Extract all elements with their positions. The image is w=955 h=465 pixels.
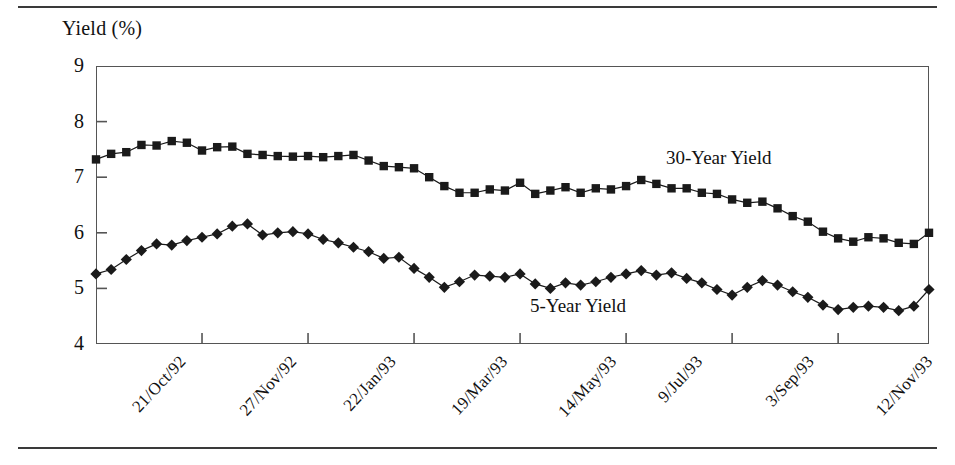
data-point	[183, 139, 191, 147]
series-line-30-year	[96, 141, 929, 244]
data-point	[469, 269, 480, 280]
data-point	[864, 233, 872, 241]
data-point	[122, 148, 130, 156]
plot-canvas	[96, 66, 929, 344]
data-point	[727, 289, 738, 300]
x-tick-label-7: 12/Nov/93	[872, 352, 937, 420]
data-point	[257, 229, 268, 240]
data-point	[486, 185, 494, 193]
x-tick-label-0: 21/Oct/92	[128, 352, 190, 417]
data-point	[302, 228, 313, 239]
data-point	[395, 163, 403, 171]
data-point	[499, 272, 510, 283]
data-point	[470, 189, 478, 197]
y-tick-label-7: 7	[44, 166, 84, 186]
data-point	[334, 152, 342, 160]
data-point	[348, 242, 359, 253]
data-point	[711, 284, 722, 295]
data-point	[121, 254, 132, 265]
data-point	[802, 292, 813, 303]
data-point	[682, 184, 690, 192]
data-point	[833, 304, 844, 315]
data-point	[590, 276, 601, 287]
data-point	[90, 268, 101, 279]
data-point	[743, 199, 751, 207]
data-point	[151, 238, 162, 249]
data-point	[895, 239, 903, 247]
data-point	[863, 301, 874, 312]
y-tick-label-9: 9	[44, 55, 84, 75]
data-point	[181, 235, 192, 246]
data-point	[546, 186, 554, 194]
data-point	[560, 277, 571, 288]
y-tick-marks	[96, 122, 107, 289]
data-point	[561, 183, 569, 191]
data-point	[879, 234, 887, 242]
data-point	[213, 143, 221, 151]
data-point	[713, 190, 721, 198]
y-axis-title: Yield (%)	[62, 17, 142, 40]
data-point	[696, 277, 707, 288]
data-point	[318, 234, 329, 245]
x-tick-label-5: 9/Jul/93	[654, 352, 707, 407]
x-tick-marks	[202, 333, 838, 344]
data-point	[227, 221, 238, 232]
data-point	[198, 146, 206, 154]
data-point	[378, 253, 389, 264]
data-point	[530, 278, 541, 289]
data-point	[848, 302, 859, 313]
data-point	[681, 273, 692, 284]
data-point	[166, 239, 177, 250]
data-point	[728, 195, 736, 203]
data-point	[893, 305, 904, 316]
x-tick-label-2: 22/Jan/93	[340, 352, 401, 415]
x-tick-label-1: 27/Nov/92	[236, 352, 301, 420]
data-point	[773, 204, 781, 212]
data-point	[242, 218, 253, 229]
bottom-rule	[18, 447, 937, 449]
y-tick-label-6: 6	[44, 222, 84, 242]
data-point	[136, 245, 147, 256]
data-point	[637, 176, 645, 184]
data-point	[817, 299, 828, 310]
data-point	[758, 197, 766, 205]
data-point	[274, 152, 282, 160]
data-point	[168, 137, 176, 145]
data-point	[819, 227, 827, 235]
data-point	[516, 179, 524, 187]
data-point	[652, 180, 660, 188]
data-point	[607, 185, 615, 193]
series-markers	[90, 137, 934, 316]
data-point	[212, 228, 223, 239]
data-point	[787, 286, 798, 297]
top-rule	[18, 6, 937, 8]
data-point	[243, 150, 251, 158]
data-point	[439, 282, 450, 293]
data-point	[531, 190, 539, 198]
data-point	[106, 264, 117, 275]
data-point	[636, 265, 647, 276]
x-tick-label-6: 3/Sep/93	[762, 352, 819, 411]
data-point	[742, 282, 753, 293]
data-point	[666, 267, 677, 278]
data-point	[514, 268, 525, 279]
y-tick-label-4: 4	[44, 333, 84, 353]
data-point	[289, 152, 297, 160]
data-point	[834, 234, 842, 242]
data-point	[925, 229, 933, 237]
data-point	[545, 283, 556, 294]
data-point	[622, 182, 630, 190]
data-point	[501, 186, 509, 194]
data-point	[575, 279, 586, 290]
data-point	[605, 272, 616, 283]
data-point	[319, 153, 327, 161]
cut-off-caption	[20, 452, 540, 464]
data-point	[393, 252, 404, 263]
data-point	[757, 275, 768, 286]
data-point	[620, 268, 631, 279]
data-point	[152, 141, 160, 149]
series-label-5-year: 5-Year Yield	[530, 295, 626, 317]
data-point	[849, 238, 857, 246]
data-point	[698, 189, 706, 197]
yield-chart-figure: Yield (%) 456789 21/Oct/9227/Nov/9222/Ja…	[0, 0, 955, 465]
